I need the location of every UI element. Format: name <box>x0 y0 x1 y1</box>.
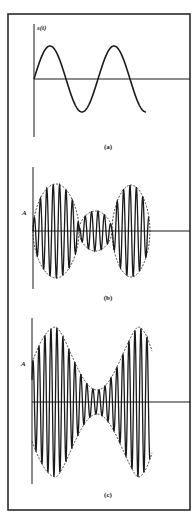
panel-caption: (a) <box>104 143 113 151</box>
panel-b-modulated-wave: A (b) <box>21 167 190 302</box>
y-axis-label: s(t) <box>36 24 46 32</box>
panel-c-modulated-wave: A (c) <box>20 318 190 499</box>
panel-caption: (c) <box>104 491 112 499</box>
figure: s(t) (a) A (b) A (c) <box>0 0 195 513</box>
panel-caption: (b) <box>104 294 113 302</box>
panel-a-sine-wave: s(t) (a) <box>34 24 190 151</box>
amplitude-label: A <box>20 360 26 368</box>
amplitude-label: A <box>21 209 27 217</box>
